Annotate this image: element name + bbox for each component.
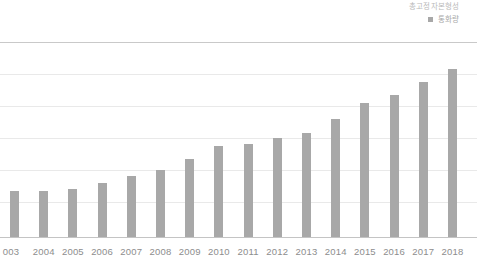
x-axis-tick-label: 2014	[320, 246, 352, 257]
x-axis-tick-label: 2012	[261, 246, 293, 257]
x-axis-tick-label: 2015	[349, 246, 381, 257]
x-axis-tick-label: 2006	[86, 246, 118, 257]
x-axis-tick-label: 2010	[203, 246, 235, 257]
x-axis-tick-label: 2008	[145, 246, 177, 257]
chart-screenshot: 총고정자본형성 통화량 0032004200520062007200820092…	[0, 0, 477, 260]
x-axis-tick-label: 2017	[407, 246, 439, 257]
bar-chart-plot: 0032004200520062007200820092010201120122…	[0, 0, 477, 260]
x-axis-tick-label: 2004	[28, 246, 60, 257]
x-axis-tick-label: 2009	[174, 246, 206, 257]
x-axis-tick-label: 2011	[232, 246, 264, 257]
x-axis-tick-label: 2007	[115, 246, 147, 257]
x-axis-tick-label: 2013	[291, 246, 323, 257]
x-axis: 0032004200520062007200820092010201120122…	[0, 0, 477, 260]
x-axis-tick-label: 2018	[437, 246, 469, 257]
x-axis-tick-label: 003	[0, 246, 26, 257]
x-axis-tick-label: 2016	[378, 246, 410, 257]
x-axis-tick-label: 2005	[57, 246, 89, 257]
